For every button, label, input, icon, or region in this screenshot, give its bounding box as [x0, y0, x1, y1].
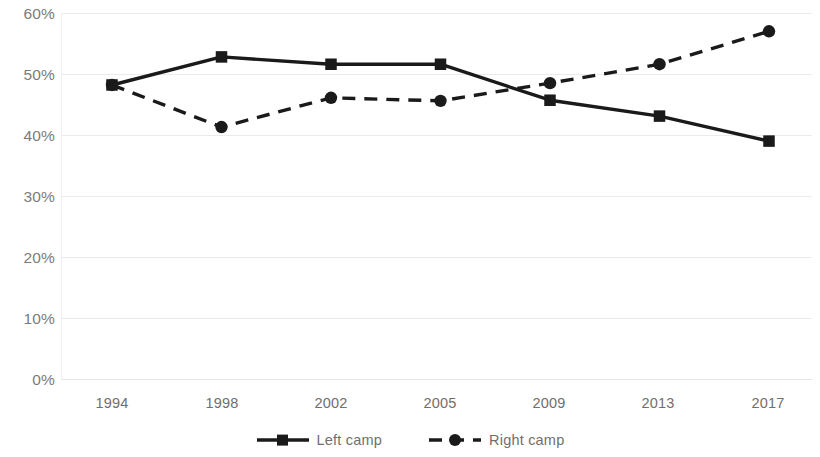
chart-legend: Left camp Right camp	[0, 432, 820, 448]
data-point	[763, 135, 775, 147]
line-chart: 60% 50% 40% 30% 20% 10% 0% 1994 1998 200…	[0, 0, 820, 457]
legend-entry-left-camp[interactable]: Left camp	[256, 432, 382, 448]
markers-right-camp	[106, 25, 775, 133]
x-tick-label-2017: 2017	[723, 396, 813, 411]
data-point	[216, 51, 228, 63]
dashed-line-circle-marker-icon	[428, 432, 482, 448]
x-tick-label-2009: 2009	[504, 396, 594, 411]
data-point	[325, 58, 337, 70]
line-right-camp	[112, 31, 769, 127]
data-point	[434, 95, 446, 107]
x-tick-label-1994: 1994	[67, 396, 157, 411]
legend-label-left-camp: Left camp	[317, 433, 382, 448]
x-tick-label-2002: 2002	[286, 396, 376, 411]
x-tick-label-2013: 2013	[613, 396, 703, 411]
solid-line-square-marker-icon	[256, 432, 310, 448]
data-point	[435, 58, 447, 70]
series-layer	[0, 0, 820, 457]
x-tick-label-1998: 1998	[177, 396, 267, 411]
x-tick-label-2005: 2005	[395, 396, 485, 411]
data-point	[654, 110, 666, 122]
data-point	[325, 92, 337, 104]
data-point	[544, 94, 556, 106]
data-point	[106, 79, 118, 91]
legend-label-right-camp: Right camp	[489, 433, 564, 448]
data-point	[544, 77, 556, 89]
legend-entry-right-camp[interactable]: Right camp	[428, 432, 564, 448]
data-point	[763, 25, 775, 37]
series-right-camp	[106, 25, 775, 133]
data-point	[653, 58, 665, 70]
data-point	[215, 121, 227, 133]
